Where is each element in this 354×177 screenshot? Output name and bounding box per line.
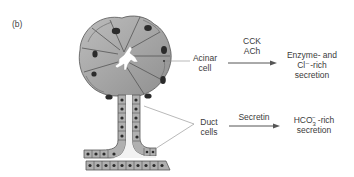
product-line1: Enzyme- and (282, 50, 342, 60)
duct-cells-label: Duct cells (197, 117, 221, 137)
bicarbonate-secretion-label: HCO3− -rich secretion (284, 115, 344, 135)
stimulus-cck: CCK (238, 36, 266, 46)
acinus-duct-illustration (0, 0, 354, 177)
bicarbonate-ion: HCO (294, 115, 313, 125)
rich-text: -rich (318, 115, 335, 125)
duct-arrow-head (273, 124, 280, 129)
acinar-cell-label: Acinar cell (190, 53, 220, 73)
product-line2: secretion (284, 125, 344, 135)
acinar-stimuli: CCK ACh (238, 36, 266, 56)
acinar-arrow-head (270, 61, 277, 66)
duct-stimulus: Secretin (234, 112, 274, 122)
duct-cells-label-line1: Duct (197, 117, 221, 127)
product-line2: Cl⁻-rich (282, 60, 342, 70)
product-line3: secretion (282, 70, 342, 80)
product-line1: HCO3− -rich (284, 115, 344, 125)
acinar-cell-label-line2: cell (190, 63, 220, 73)
stimulus-ach: ACh (238, 46, 266, 56)
duct-leader-line (144, 106, 194, 149)
duct (84, 95, 156, 158)
acinar-cell-label-line1: Acinar (190, 53, 220, 63)
enzyme-secretion-label: Enzyme- and Cl⁻-rich secretion (282, 50, 342, 80)
duct-cells-label-line2: cells (197, 127, 221, 137)
ion-superscript: − (312, 114, 316, 120)
stimulus-secretin: Secretin (234, 112, 274, 122)
